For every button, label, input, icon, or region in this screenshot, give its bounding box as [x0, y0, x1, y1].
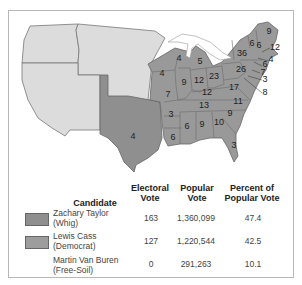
candidate-party: (Whig) [53, 219, 109, 229]
percent-popular-vote: 42.5 [238, 237, 268, 247]
state-electoral-label: 6 [170, 132, 175, 142]
popular-vote: 1,360,099 [171, 214, 221, 224]
state-electoral-label: 13 [199, 100, 209, 110]
header-percent-line1: Percent of [220, 183, 284, 193]
header-popular-line2: Vote [173, 193, 221, 203]
candidate-taylor: Zachary Taylor (Whig) [53, 209, 109, 228]
candidate-van-buren: Martin Van Buren (Free-Soil) [53, 256, 119, 275]
state-electoral-label: 23 [209, 71, 219, 81]
state-electoral-label: 4 [176, 53, 181, 63]
state-electoral-label: 4 [159, 68, 164, 78]
state-electoral-label: 4 [268, 54, 273, 64]
state-electoral-label: 9 [199, 119, 204, 129]
state-electoral-label: 9 [266, 26, 271, 36]
electoral-vote: 0 [136, 260, 166, 270]
header-percent-line2: Popular Vote [220, 193, 284, 203]
state-electoral-label: 17 [229, 82, 239, 92]
header-popular-vote: Popular Vote [173, 183, 221, 203]
popular-vote: 291,263 [171, 260, 221, 270]
state-electoral-label: 12 [202, 87, 212, 97]
state-electoral-label: 12 [194, 75, 204, 85]
header-percent-popular-vote: Percent of Popular Vote [220, 183, 284, 203]
state-electoral-label: 7 [165, 89, 170, 99]
us-election-map: 9661236462673845491223177121113396910463 [0, 0, 302, 180]
state-electoral-label: 6 [256, 40, 261, 50]
percent-popular-vote: 10.1 [238, 260, 268, 270]
header-electoral-vote: Electoral Vote [123, 183, 177, 203]
header-electoral-line2: Vote [123, 193, 177, 203]
state-electoral-label: 8 [262, 87, 267, 97]
header-popular-line1: Popular [173, 183, 221, 193]
percent-popular-vote: 47.4 [238, 214, 268, 224]
popular-vote: 1,220,544 [171, 237, 221, 247]
state-electoral-label: 3 [231, 140, 236, 150]
electoral-vote: 127 [136, 237, 166, 247]
whig-swatch [25, 213, 49, 226]
state-electoral-label: 36 [237, 48, 247, 58]
state-electoral-label: 9 [227, 108, 232, 118]
state-electoral-label: 3 [262, 74, 267, 84]
state-electoral-label: 11 [233, 96, 242, 106]
state-electoral-label: 6 [184, 121, 189, 131]
state-electoral-label: 12 [270, 42, 280, 52]
state-electoral-label: 3 [168, 109, 173, 119]
candidate-cass: Lewis Cass (Democrat) [53, 232, 96, 251]
state-electoral-label: 5 [197, 56, 202, 66]
candidate-party: (Free-Soil) [53, 266, 119, 276]
electoral-vote: 163 [136, 214, 166, 224]
header-electoral-line1: Electoral [123, 183, 177, 193]
candidate-party: (Democrat) [53, 242, 96, 252]
oregon-territory [22, 24, 79, 63]
state-electoral-label: 6 [249, 38, 254, 48]
state-electoral-label: 10 [214, 117, 224, 127]
democrat-swatch [25, 236, 49, 249]
state-electoral-label: 4 [130, 131, 135, 141]
header-candidate: Candidate [60, 198, 130, 208]
state-electoral-label: 26 [236, 64, 246, 74]
state-electoral-label: 9 [181, 77, 186, 87]
